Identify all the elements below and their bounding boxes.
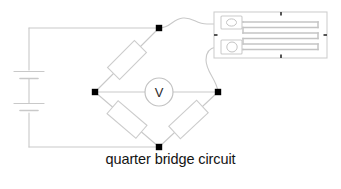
resistor-bottom-right-body bbox=[169, 100, 208, 138]
node-right bbox=[215, 89, 221, 95]
node-left bbox=[92, 89, 98, 95]
strain-gauge bbox=[214, 12, 327, 58]
resistor-bottom-left-body bbox=[107, 101, 147, 139]
lead-wire-upper bbox=[159, 18, 221, 28]
resistor-top-left bbox=[108, 41, 147, 80]
resistor-bottom-right bbox=[169, 100, 208, 138]
figure-caption: quarter bridge circuit bbox=[0, 152, 341, 167]
figure-canvas: V bbox=[0, 0, 341, 189]
voltmeter-label: V bbox=[155, 85, 164, 100]
node-bottom bbox=[156, 144, 162, 150]
node-top bbox=[156, 25, 162, 31]
battery bbox=[14, 72, 44, 111]
resistor-bottom-left bbox=[107, 101, 147, 139]
solder-tab-upper-pad bbox=[227, 19, 237, 26]
resistor-top-left-body bbox=[108, 41, 147, 80]
solder-tab-lower-pad bbox=[227, 42, 237, 52]
